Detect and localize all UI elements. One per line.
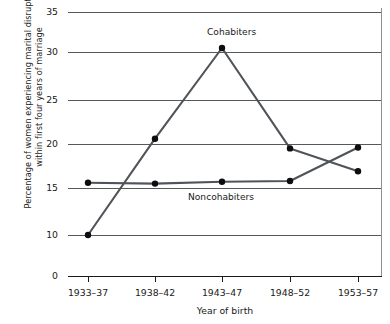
x-tick-label-1: 1938–42 [122,287,188,298]
data-point-noncohabiters-1 [152,180,158,186]
y-tick-label-15: 15 [30,182,58,193]
y-tick-label-35: 35 [30,6,58,17]
x-tick-0 [88,276,89,282]
y-axis-tick-labels: 0101520253035 [30,0,58,324]
chart-figure: Percentage of women experiencing marital… [0,0,390,324]
y-tick-label-30: 30 [30,46,58,57]
annotation-cohabiters: Cohabiters [207,27,256,37]
x-tick-label-2: 1943–47 [189,287,255,298]
x-tick-1 [155,276,156,282]
data-point-noncohabiters-3 [287,178,293,184]
plot-area: 1933–371938–421943–471948–521953–57 Coha… [68,0,382,324]
x-tick-4 [358,276,359,282]
y-tick-label-25: 25 [30,94,58,105]
x-axis-label: Year of birth [68,305,382,316]
annotation-noncohabiters: Noncohabiters [188,192,254,202]
data-point-cohabiters-1 [152,136,158,142]
x-tick-label-3: 1948–52 [257,287,323,298]
data-point-cohabiters-4 [355,168,361,174]
x-tick-label-0: 1933–37 [55,287,121,298]
x-tick-label-4: 1953–57 [325,287,390,298]
data-point-cohabiters-3 [287,145,293,151]
data-point-cohabiters-0 [85,232,91,238]
y-tick-label-10: 10 [30,229,58,240]
data-point-noncohabiters-4 [355,144,361,150]
x-tick-3 [290,276,291,282]
data-point-noncohabiters-2 [219,179,225,185]
data-point-cohabiters-2 [219,45,225,51]
data-point-noncohabiters-0 [85,180,91,186]
series-line-cohabiters [88,48,358,235]
y-tick-label-20: 20 [30,138,58,149]
x-tick-2 [222,276,223,282]
series-lines [68,0,382,324]
y-tick-label-0: 0 [30,270,58,281]
